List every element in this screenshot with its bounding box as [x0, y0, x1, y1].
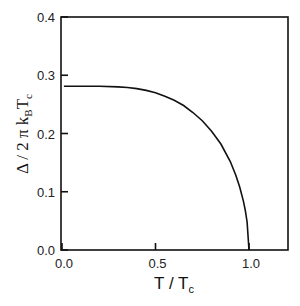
x-axis-ticks: 0.00.51.0 — [55, 243, 260, 271]
x-tick-label: 0.5 — [148, 256, 166, 271]
plot-border — [61, 17, 288, 250]
gap-curve — [64, 86, 249, 250]
y-tick-label: 0.3 — [37, 68, 55, 83]
y-tick-label: 0.1 — [37, 185, 55, 200]
y-axis-ticks: 0.00.10.20.30.4 — [37, 10, 68, 258]
x-tick-label: 0.0 — [55, 256, 73, 271]
svg-text:Δ / 2 π kBTc: Δ / 2 π kBTc — [13, 94, 34, 174]
plot-frame — [61, 17, 288, 250]
y-tick-label: 0.2 — [37, 127, 55, 142]
bcs-gap-chart: 0.00.10.20.30.4 0.00.51.0 T / Tc Δ / 2 π… — [0, 0, 300, 306]
x-axis-title: T / Tc — [154, 274, 194, 295]
y-axis-title: Δ / 2 π kBTc — [13, 94, 34, 174]
x-tick-label: 1.0 — [242, 256, 260, 271]
y-tick-label: 0.4 — [37, 10, 55, 25]
y-tick-label: 0.0 — [37, 243, 55, 258]
